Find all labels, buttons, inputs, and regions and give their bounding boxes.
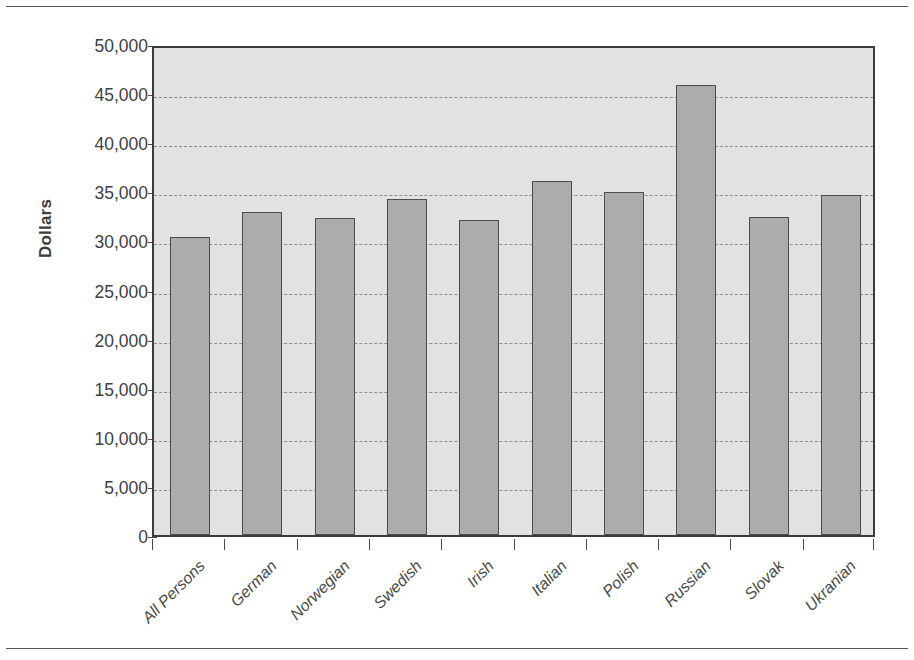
chart-figure: Dollars 05,00010,00015,00020,00025,00030…	[0, 0, 914, 660]
bar	[604, 192, 644, 535]
y-axis-tick-label: 50,000	[52, 36, 148, 56]
x-axis-tick-mark	[730, 539, 731, 550]
bar	[749, 217, 789, 535]
bar	[170, 237, 210, 535]
x-axis-tick-mark	[658, 539, 659, 550]
x-axis-tick-mark	[803, 539, 804, 550]
y-axis-tick-label: 0	[52, 527, 148, 547]
x-axis-tick-mark	[369, 539, 370, 550]
y-axis-tick-label: 45,000	[52, 85, 148, 105]
bar	[676, 85, 716, 535]
y-axis-tick-labels: 05,00010,00015,00020,00025,00030,00035,0…	[52, 36, 148, 548]
x-axis: All PersonsGermanNorwegianSwedishIrishIt…	[152, 537, 875, 657]
y-axis-tick-label: 20,000	[52, 331, 148, 351]
x-axis-tick-mark	[441, 539, 442, 550]
x-axis-tick-mark	[873, 539, 874, 550]
x-axis-tick-mark	[297, 539, 298, 550]
bar	[242, 212, 282, 535]
y-axis-tick-label: 25,000	[52, 282, 148, 302]
y-axis-tick-label: 35,000	[52, 183, 148, 203]
bar	[387, 199, 427, 535]
y-axis-tick-label: 40,000	[52, 134, 148, 154]
x-axis-tick-mark	[514, 539, 515, 550]
y-axis-tick-label: 10,000	[52, 429, 148, 449]
bar	[532, 181, 572, 536]
y-axis-tick-label: 15,000	[52, 380, 148, 400]
bars-layer	[154, 48, 873, 535]
figure-top-rule	[6, 6, 908, 7]
bar	[821, 195, 861, 535]
figure-bottom-rule	[6, 648, 908, 649]
y-axis-tick-label: 5,000	[52, 478, 148, 498]
y-axis-tick-label: 30,000	[52, 232, 148, 252]
bar	[315, 218, 355, 535]
x-axis-tick-mark	[152, 539, 153, 550]
plot-area	[152, 46, 875, 537]
x-axis-tick-mark	[586, 539, 587, 550]
bar	[459, 220, 499, 535]
x-axis-tick-mark	[224, 539, 225, 550]
